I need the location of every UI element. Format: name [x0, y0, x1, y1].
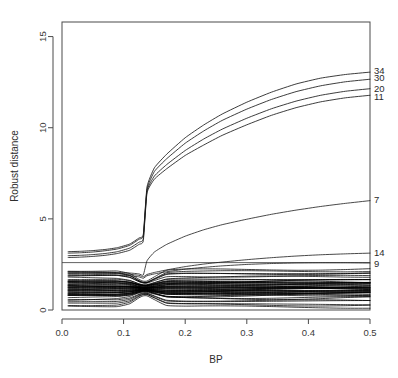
labelled-curve-group — [68, 72, 370, 278]
plot-frame — [62, 22, 370, 310]
series-label-14: 14 — [374, 247, 385, 258]
x-tick-label: 0.3 — [240, 327, 253, 338]
y-tick-label: 5 — [37, 216, 48, 221]
plot-box-border — [62, 22, 370, 310]
series-label-group: 343020117149 — [374, 65, 385, 270]
y-tick-label: 15 — [37, 31, 48, 42]
chart-container: 343020117149 0.00.10.20.30.40.5 051015 B… — [0, 0, 398, 378]
x-tick-label: 0.4 — [302, 327, 315, 338]
robust-distance-plot: 343020117149 0.00.10.20.30.40.5 051015 B… — [0, 0, 398, 378]
series-curve-7 — [68, 201, 370, 276]
series-curve-20 — [68, 89, 370, 256]
series-label-7: 7 — [374, 194, 379, 205]
series-label-9: 9 — [374, 258, 379, 269]
y-tick-label: 0 — [37, 307, 48, 312]
y-axis: 051015 — [37, 31, 53, 312]
series-curve-30 — [68, 79, 370, 253]
x-tick-label: 0.2 — [179, 327, 192, 338]
y-tick-label: 10 — [37, 122, 48, 133]
x-tick-label: 0.1 — [117, 327, 130, 338]
x-axis: 0.00.10.20.30.40.5 — [55, 319, 376, 338]
y-axis-title: Robust distance — [9, 130, 20, 202]
x-tick-label: 0.0 — [55, 327, 68, 338]
x-axis-title: BP — [209, 354, 223, 365]
series-label-11: 11 — [374, 91, 384, 102]
series-label-30: 30 — [374, 72, 385, 83]
x-tick-label: 0.5 — [363, 327, 376, 338]
series-curve-34 — [68, 72, 370, 252]
series-curve-11 — [68, 95, 370, 257]
